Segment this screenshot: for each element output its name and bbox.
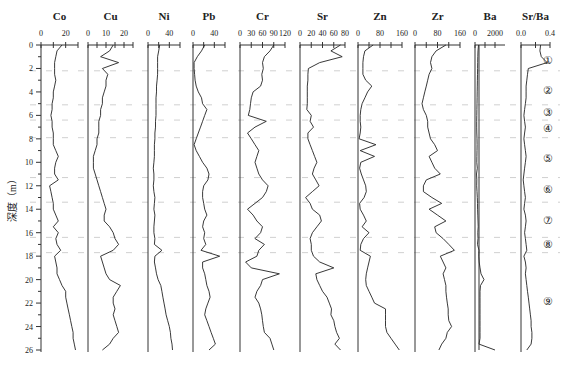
panel-title: Cr	[256, 10, 269, 22]
panel-cr: Cr0306090120	[238, 10, 291, 352]
x-tick-label: 90	[270, 29, 278, 38]
panel-ni: Ni040	[146, 10, 180, 352]
x-tick-label: 0	[298, 29, 302, 38]
series-line	[359, 45, 399, 350]
zone-label: ③	[543, 106, 553, 118]
panel-title: Ba	[484, 10, 497, 22]
depth-tick-label: 8	[29, 135, 33, 144]
depth-tick-label: 14	[25, 205, 33, 214]
panel-title: Sr	[317, 10, 328, 22]
zone-label: ⑥	[543, 183, 553, 195]
series-line	[50, 45, 76, 350]
panel-zr: Zr080160	[413, 10, 466, 352]
panel-pb: Pb040	[191, 10, 225, 352]
panel-title: Cu	[103, 10, 117, 22]
depth-tick-label: 0	[29, 41, 33, 50]
depth-tick-label: 10	[25, 158, 33, 167]
series-line	[194, 45, 220, 350]
x-tick-label: 40	[210, 29, 218, 38]
zone-boundary-lines	[30, 71, 560, 253]
x-tick-label: 0	[473, 29, 477, 38]
depth-tick-label: 4	[29, 88, 33, 97]
zone-labels: ①②③④⑤⑥⑦⑧⑨	[543, 54, 553, 306]
zone-label: ⑤	[543, 152, 553, 164]
depth-tick-label: 2	[29, 64, 33, 73]
x-tick-label: 80	[434, 29, 442, 38]
depth-tick-label: 6	[29, 111, 33, 120]
depth-tick-label: 16	[25, 229, 33, 238]
panel-co: Co020	[39, 10, 78, 352]
x-tick-label: 160	[396, 29, 408, 38]
series-line	[306, 45, 343, 350]
panel-title: Zn	[373, 10, 386, 22]
x-tick-label: 10	[102, 29, 110, 38]
x-tick-label: 160	[454, 29, 466, 38]
zone-label: ⑨	[543, 295, 553, 307]
x-tick-label: 20	[120, 29, 128, 38]
x-tick-label: 60	[259, 29, 267, 38]
series-line	[93, 45, 120, 350]
depth-tick-label: 22	[25, 299, 33, 308]
zone-label: ②	[543, 84, 553, 96]
x-tick-label: 0	[413, 29, 417, 38]
x-tick-label: 0.4	[545, 29, 555, 38]
depth-axis-label: 深度（m）	[6, 174, 18, 222]
series-line	[246, 45, 280, 350]
zone-label: ⑦	[543, 214, 553, 226]
x-tick-label: 80	[376, 29, 384, 38]
panel-title: Ni	[159, 10, 170, 22]
x-tick-label: 2000	[487, 29, 503, 38]
x-tick-label: 0	[39, 29, 43, 38]
x-tick-label: 120	[279, 29, 291, 38]
x-tick-label: 40	[319, 29, 327, 38]
element-panels: Co020Cu01020Ni040Pb040Cr0306090120Sr0204…	[39, 10, 555, 352]
x-tick-label: 30	[247, 29, 255, 38]
series-line	[422, 45, 454, 350]
panel-title: Zr	[431, 10, 443, 22]
panel-zn: Zn080160	[356, 10, 408, 352]
x-tick-label: 0	[191, 29, 195, 38]
panel-title: Pb	[203, 10, 216, 22]
x-tick-label: 80	[341, 29, 349, 38]
depth-tick-label: 24	[25, 323, 33, 332]
x-tick-label: 0	[86, 29, 90, 38]
x-tick-label: 20	[307, 29, 315, 38]
zone-label: ④	[543, 122, 553, 134]
zone-label: ①	[543, 54, 553, 66]
x-tick-label: 0.0	[516, 29, 526, 38]
panel-ba: Ba02000	[473, 10, 505, 352]
x-tick-label: 60	[330, 29, 338, 38]
panel-title: Co	[53, 10, 67, 22]
depth-tick-label: 12	[25, 182, 33, 191]
x-tick-label: 0	[146, 29, 150, 38]
depth-tick-label: 18	[25, 252, 33, 261]
panel-cu: Cu01020	[86, 10, 133, 352]
panel-title: Sr/Ba	[522, 10, 549, 22]
panel-sr: Sr020406080	[298, 10, 349, 352]
depth-tick-label: 20	[25, 276, 33, 285]
series-line	[153, 45, 172, 350]
depth-axis: 02468101214161820222426	[25, 41, 41, 355]
geochemical-depth-profile-chart: 02468101214161820222426 深度（m） Co020Cu010…	[0, 0, 573, 366]
x-tick-label: 40	[165, 29, 173, 38]
x-tick-label: 0	[356, 29, 360, 38]
zone-label: ⑧	[543, 238, 553, 250]
x-tick-label: 0	[238, 29, 242, 38]
x-tick-label: 20	[62, 29, 70, 38]
depth-tick-label: 26	[25, 346, 33, 355]
